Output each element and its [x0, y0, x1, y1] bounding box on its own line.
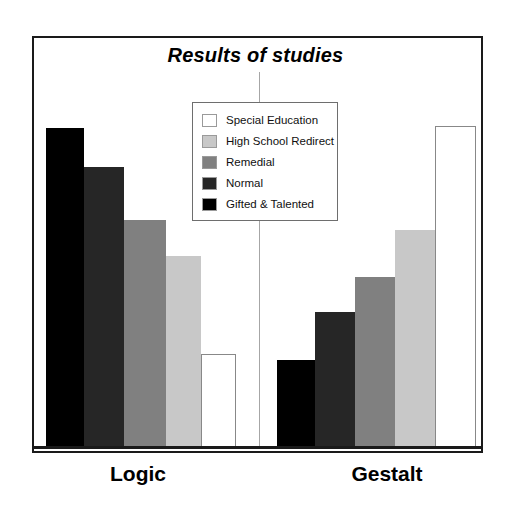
bar-logic-gifted-talented [46, 128, 84, 447]
legend-item: Special Education [193, 110, 337, 131]
bar-logic-special-education [201, 354, 236, 447]
category-label-logic: Logic [78, 462, 198, 486]
legend-item-label: Remedial [226, 157, 275, 169]
legend-swatch-icon [202, 135, 217, 148]
bar-gestalt-high-school-redirect [395, 230, 435, 447]
legend-item: Normal [193, 173, 337, 194]
legend-item: Remedial [193, 152, 337, 173]
legend-swatch-icon [202, 177, 217, 190]
bars-layer [0, 0, 511, 447]
bar-logic-high-school-redirect [166, 256, 201, 447]
bar-gestalt-gifted-talented [277, 360, 315, 447]
legend: Special EducationHigh School RedirectRem… [192, 102, 338, 221]
legend-item-label: High School Redirect [226, 136, 334, 148]
bar-chart: Results of studies Special EducationHigh… [0, 0, 511, 512]
axis-baseline [34, 446, 481, 449]
bar-gestalt-special-education [435, 126, 476, 447]
bar-logic-normal [84, 167, 124, 447]
legend-item: High School Redirect [193, 131, 337, 152]
legend-swatch-icon [202, 114, 217, 127]
legend-item-label: Gifted & Talented [226, 199, 314, 211]
category-label-gestalt: Gestalt [317, 462, 457, 486]
legend-item-label: Special Education [226, 115, 318, 127]
bar-gestalt-remedial [355, 277, 395, 447]
legend-item-label: Normal [226, 178, 263, 190]
legend-swatch-icon [202, 198, 217, 211]
bar-gestalt-normal [315, 312, 355, 447]
legend-swatch-icon [202, 156, 217, 169]
legend-item: Gifted & Talented [193, 194, 337, 215]
bar-logic-remedial [124, 220, 166, 447]
